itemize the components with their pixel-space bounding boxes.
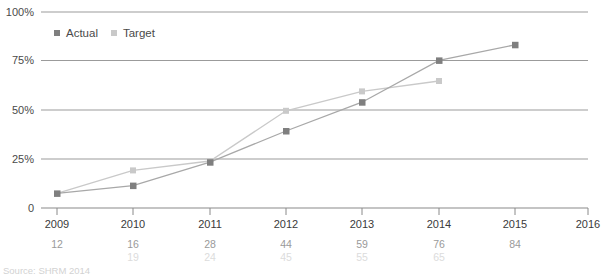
series-line-target: [57, 78, 442, 193]
y-axis-label-100: 100%: [0, 6, 34, 18]
value-target-2014: 65: [409, 251, 469, 263]
data-point-target-2010: [130, 167, 136, 173]
value-actual-2013: 59: [332, 238, 392, 250]
value-actual-2015: 84: [485, 238, 545, 250]
data-point-actual-2015: [512, 42, 519, 49]
data-point-actual-2009: [54, 190, 61, 197]
value-target-2012: 45: [256, 251, 316, 263]
legend-label-target: Target: [123, 27, 155, 39]
x-axis-label-2016: 2016: [558, 218, 605, 230]
x-axis-label-2010: 2010: [103, 218, 163, 230]
value-actual-2012: 44: [256, 238, 316, 250]
value-target-2010: 19: [103, 251, 163, 263]
data-point-actual-2011: [207, 159, 214, 166]
x-axis: [41, 208, 588, 215]
data-point-actual-2014: [436, 57, 443, 64]
x-axis-label-2013: 2013: [332, 218, 392, 230]
legend-label-actual: Actual: [66, 27, 98, 39]
x-axis-label-2011: 2011: [180, 218, 240, 230]
value-actual-2011: 28: [180, 238, 240, 250]
x-axis-label-2009: 2009: [27, 218, 87, 230]
legend-swatch-actual-icon: [54, 30, 60, 36]
y-axis-label-50: 50%: [0, 104, 34, 116]
chart-legend: Actual Target: [54, 27, 155, 39]
x-axis-label-2012: 2012: [256, 218, 316, 230]
value-actual-2014: 76: [409, 238, 469, 250]
value-actual-2009: 12: [27, 238, 87, 250]
value-target-2011: 24: [180, 251, 240, 263]
value-target-2013: 55: [332, 251, 392, 263]
data-point-actual-2013: [359, 99, 366, 106]
data-point-target-2014: [436, 78, 442, 84]
data-point-actual-2010: [130, 183, 137, 190]
value-actual-2010: 16: [103, 238, 163, 250]
x-axis-label-2015: 2015: [485, 218, 545, 230]
source-note: Source: SHRM 2014: [3, 265, 90, 276]
legend-item-actual[interactable]: Actual: [54, 27, 98, 39]
x-axis-label-2014: 2014: [409, 218, 469, 230]
data-point-target-2012: [283, 108, 289, 114]
y-axis-label-25: 25%: [0, 153, 34, 165]
data-point-target-2013: [359, 88, 365, 94]
y-axis-label-75: 75%: [0, 54, 34, 66]
data-point-actual-2012: [283, 128, 290, 135]
y-axis-label-0: 0: [0, 202, 34, 214]
legend-swatch-target-icon: [111, 30, 117, 36]
legend-item-target[interactable]: Target: [111, 27, 155, 39]
